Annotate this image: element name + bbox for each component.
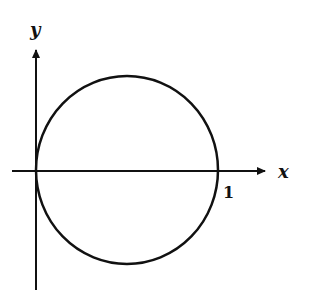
x-axis-label: x (277, 161, 289, 182)
y-axis-label: y (29, 19, 42, 40)
diagram-canvas: y x 1 (0, 0, 311, 296)
x-intercept-label: 1 (223, 183, 234, 202)
